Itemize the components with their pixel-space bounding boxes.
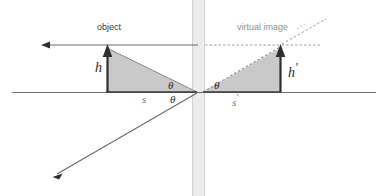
- mirror-surface-band: [192, 0, 205, 196]
- ray-diagram-svg: [0, 0, 391, 196]
- angle-image-label: θ: [214, 79, 219, 91]
- image-distance-label: s': [232, 93, 238, 108]
- object-height-label: h: [95, 60, 102, 76]
- incident-ray-arrowhead: [41, 42, 50, 49]
- image-height-letter: h: [288, 65, 295, 80]
- ray-diagram-canvas: object virtual image h h' s s' θ θ θ: [0, 0, 391, 196]
- image-height-prime: ': [295, 60, 298, 74]
- angle-reflection-label: θ: [170, 93, 175, 105]
- object-distance-label: s: [142, 93, 146, 105]
- reflected-ray-arrowhead: [53, 174, 63, 180]
- virtual-image-label: virtual image: [237, 22, 288, 32]
- reflected-ray-backextension-dashed: [282, 19, 326, 44]
- image-height-label: h': [288, 60, 298, 81]
- image-distance-prime: ': [236, 93, 238, 103]
- angle-incidence-label: θ: [168, 79, 173, 91]
- reflected-ray-line: [57, 93, 197, 174]
- virtual-image-leader-dashed: [297, 24, 305, 29]
- object-label: object: [97, 22, 121, 32]
